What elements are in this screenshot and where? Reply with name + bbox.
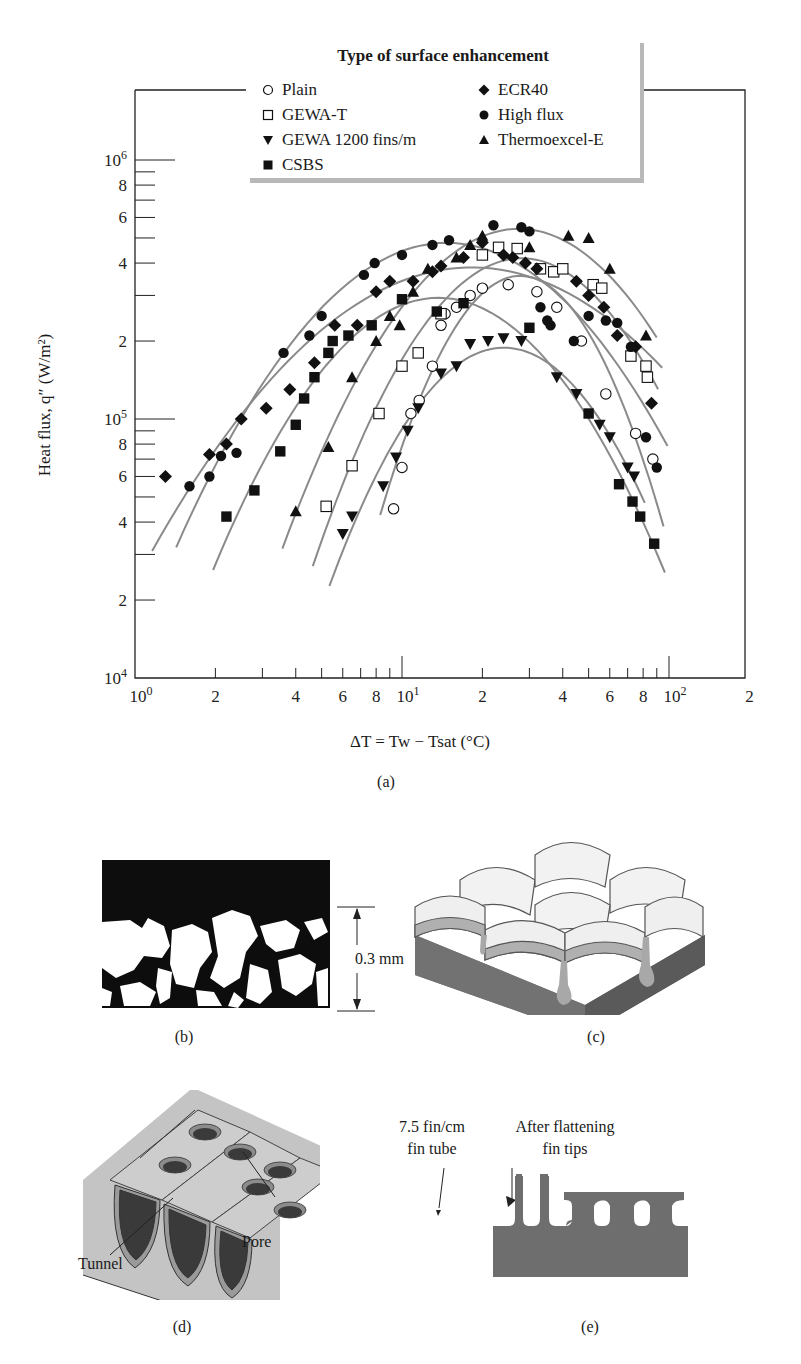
- x-tick-label: 4: [559, 687, 568, 706]
- data-point: [611, 329, 624, 342]
- x-tick-label: 2: [745, 687, 754, 706]
- data-point: [159, 470, 172, 483]
- data-point: [366, 320, 376, 330]
- data-point: [221, 511, 231, 521]
- data-point: [630, 428, 640, 438]
- panel-c-caption: (c): [566, 1028, 626, 1046]
- data-point: [451, 361, 463, 372]
- data-point: [601, 315, 611, 325]
- legend-item-gewa-t: GEWA-T: [262, 105, 347, 125]
- y-tick-label: 2: [119, 591, 128, 610]
- data-point: [458, 298, 468, 308]
- y-tick-label: 104: [104, 666, 127, 688]
- data-point: [612, 318, 622, 328]
- data-point: [347, 461, 357, 471]
- open-circle-icon: [262, 84, 274, 96]
- data-point: [397, 250, 407, 260]
- x-tick-label: 2: [478, 687, 487, 706]
- filled-square-icon: [262, 159, 274, 171]
- data-point: [614, 479, 624, 489]
- data-point: [308, 356, 321, 369]
- data-point: [552, 302, 562, 312]
- data-point: [383, 275, 396, 288]
- data-point: [532, 287, 542, 297]
- data-point: [583, 232, 595, 243]
- data-point: [545, 320, 555, 330]
- x-tick-label: 4: [292, 687, 301, 706]
- data-point: [291, 420, 301, 430]
- x-tick-label: 6: [606, 687, 615, 706]
- data-point: [503, 280, 513, 290]
- triangle-up-icon: [478, 134, 490, 146]
- data-point: [370, 335, 382, 346]
- x-tick-label: 100: [130, 684, 153, 706]
- fit-curve-2: [329, 348, 644, 586]
- data-point: [558, 264, 568, 274]
- y-tick-label: 2: [119, 332, 128, 351]
- data-point: [641, 432, 651, 442]
- data-point: [562, 230, 574, 241]
- fin-tube-label: 7.5 fin/cm fin tube: [382, 1116, 482, 1160]
- x-tick-label: 8: [639, 687, 648, 706]
- data-point: [464, 339, 476, 350]
- data-point: [628, 471, 640, 482]
- data-point: [406, 408, 416, 418]
- legend-title: Type of surface enhancement: [246, 46, 640, 66]
- data-point: [523, 241, 535, 252]
- x-tick-label: 101: [397, 684, 420, 706]
- x-tick-label: 2: [211, 687, 220, 706]
- data-point: [641, 361, 651, 371]
- data-point: [231, 448, 241, 458]
- x-tick-label: 6: [339, 687, 348, 706]
- data-point: [346, 371, 358, 382]
- data-point: [477, 250, 487, 260]
- data-point: [388, 504, 398, 514]
- flattened-fin-label: After flattening fin tips: [480, 1116, 650, 1160]
- data-point: [582, 289, 595, 302]
- data-point: [432, 306, 442, 316]
- data-point: [402, 426, 414, 437]
- data-point: [652, 462, 662, 472]
- data-point: [216, 451, 226, 461]
- data-point: [649, 539, 659, 549]
- data-point: [477, 283, 487, 293]
- data-point: [299, 393, 309, 403]
- data-point: [524, 323, 534, 333]
- x-tick-label: 8: [372, 687, 381, 706]
- y-tick-label: 6: [119, 467, 128, 486]
- data-point: [482, 336, 494, 347]
- panel-c-surface-illustration: [385, 825, 715, 1015]
- data-point: [343, 330, 353, 340]
- data-point: [321, 501, 331, 511]
- panel-e-caption: (e): [560, 1318, 620, 1336]
- data-point: [436, 320, 446, 330]
- data-point: [397, 462, 407, 472]
- chart-axes: 10024681012468102210424681052468106: [104, 90, 754, 706]
- data-point: [203, 448, 216, 461]
- panel-b-porous-layer-image: [100, 860, 340, 1010]
- open-square-icon: [262, 109, 274, 121]
- data-markers: [159, 220, 662, 549]
- panel-e-fin-profile: [0, 1160, 801, 1300]
- y-tick-label: 4: [119, 254, 128, 273]
- data-point: [309, 372, 319, 382]
- fit-curve-3: [213, 298, 665, 573]
- filled-diamond-icon: [478, 84, 490, 96]
- y-axis-label: Heat flux, q″ (W/m²): [35, 290, 55, 520]
- panel-d-caption: (d): [152, 1318, 212, 1336]
- data-point: [535, 302, 545, 312]
- data-point: [374, 408, 384, 418]
- chart-legend: Type of surface enhancement Plain GEWA-T…: [246, 38, 640, 178]
- y-tick-label: 105: [104, 407, 127, 429]
- data-point: [515, 336, 527, 347]
- data-point: [601, 389, 611, 399]
- data-point: [597, 283, 607, 293]
- data-point: [249, 485, 259, 495]
- data-point: [283, 383, 296, 396]
- data-point: [390, 453, 402, 464]
- y-tick-label: 4: [119, 513, 128, 532]
- data-point: [275, 446, 285, 456]
- filled-circle-icon: [478, 109, 490, 121]
- x-tick-label: 102: [664, 684, 687, 706]
- data-point: [278, 348, 288, 358]
